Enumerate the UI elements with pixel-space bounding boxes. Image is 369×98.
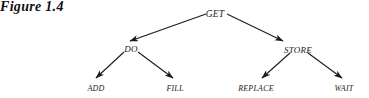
tree-node-wait: WAIT — [335, 85, 354, 93]
tree-node-fill: FILL — [166, 85, 183, 93]
tree-edge-get-do — [130, 14, 206, 41]
tree-edge-get-store — [227, 14, 283, 41]
figure-container: GET DO STORE ADD FILL REPLACE WAIT Figur… — [0, 0, 369, 98]
tree-diagram-svg — [0, 0, 369, 98]
tree-node-get: GET — [206, 10, 225, 20]
figure-caption: Figure 1.4 — [0, 0, 64, 14]
tree-node-do: DO — [124, 45, 137, 54]
tree-node-replace: REPLACE — [238, 85, 274, 93]
tree-edge-do-fill — [138, 52, 173, 78]
tree-edge-store-wait — [308, 53, 342, 78]
tree-node-add: ADD — [87, 85, 104, 93]
tree-node-store: STORE — [284, 46, 312, 55]
tree-edge-store-replace — [262, 53, 290, 78]
tree-edge-do-add — [96, 52, 124, 78]
